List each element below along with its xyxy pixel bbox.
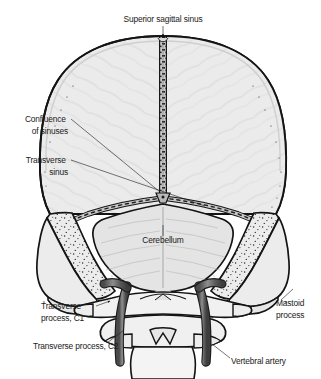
label-superior-sagittal-sinus: Superior sagittal sinus xyxy=(124,14,203,24)
label-vertebral-artery: Vertebral artery xyxy=(231,356,287,366)
label-cerebellum: Cerebellum xyxy=(142,235,183,245)
superior-sagittal-sinus-groove xyxy=(158,36,168,196)
label-confluence-of-sinuses: Confluence of sinuses xyxy=(25,114,68,136)
label-transverse-process-c1: Transverse process, C1 xyxy=(41,301,85,323)
label-transverse-process-c2: Transverse process, C2 xyxy=(33,341,119,351)
anatomy-figure: Superior sagittal sinus Confluence of si… xyxy=(0,0,321,379)
label-mastoid-process: Mastoid process xyxy=(276,298,306,320)
